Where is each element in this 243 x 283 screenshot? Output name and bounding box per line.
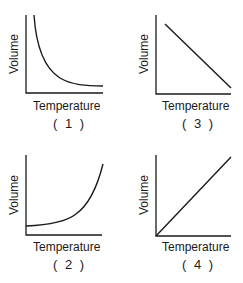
- chart-4-x-axis-label: Temperature: [162, 240, 229, 254]
- chart-3-y-axis-label: Volume: [137, 24, 151, 84]
- chart-2-y-axis-label: Volume: [7, 165, 21, 225]
- chart-3-line: [165, 24, 231, 88]
- chart-1-x-axis-label: Temperature: [33, 99, 100, 113]
- chart-2-x-axis-label: Temperature: [33, 240, 100, 254]
- chart-4-y-axis-label: Volume: [137, 165, 151, 225]
- chart-panel-4: Volume Temperature ( 4 ): [130, 140, 243, 280]
- chart-panel-3: Volume Temperature ( 3 ): [130, 0, 243, 140]
- chart-1-y-axis-label: Volume: [7, 24, 21, 84]
- chart-3-x-axis-label: Temperature: [162, 99, 229, 113]
- chart-1-caption: ( 1 ): [53, 116, 86, 131]
- chart-2-curve: [26, 164, 103, 226]
- chart-4-line: [156, 157, 231, 236]
- chart-1-curve: [34, 15, 103, 86]
- chart-1-axes: [26, 15, 103, 93]
- chart-4-caption: ( 4 ): [182, 257, 215, 272]
- chart-panel-2: Volume Temperature ( 2 ): [0, 140, 121, 280]
- chart-3-caption: ( 3 ): [182, 116, 215, 131]
- chart-panel-1: Volume Temperature ( 1 ): [0, 0, 121, 140]
- chart-2-axes: [26, 155, 102, 235]
- chart-2-caption: ( 2 ): [53, 257, 86, 272]
